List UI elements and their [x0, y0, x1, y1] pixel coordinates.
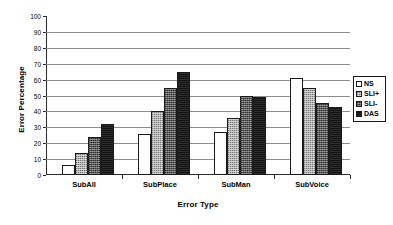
x-tick-label-subman: SubMan [221, 180, 250, 189]
y-tick-mark [43, 127, 46, 128]
legend-swatch-icon [356, 91, 362, 97]
y-tick-label: 80 [17, 44, 41, 51]
bar-suball-sliminus [88, 137, 101, 175]
legend-label: SLI+ [364, 90, 379, 98]
legend-item-das: DAS [356, 109, 383, 119]
y-tick-label: 90 [17, 28, 41, 35]
y-tick-mark [43, 159, 46, 160]
y-tick-label: 10 [17, 156, 41, 163]
bar-chart-figure: Error Percentage 0102030405060708090100 … [0, 0, 393, 225]
legend-label: NS [364, 80, 374, 88]
legend-item-ns: NS [356, 79, 383, 89]
bar-suball-das [101, 124, 114, 175]
bar-suball-ns [62, 165, 75, 175]
y-tick-mark [43, 16, 46, 17]
bar-subman-sliplus [227, 118, 240, 175]
bar-subvoice-sliplus [303, 88, 316, 175]
legend-label: SLI- [364, 100, 377, 108]
x-tick-label-subplace: SubPlace [143, 180, 177, 189]
y-tick-label: 100 [17, 13, 41, 20]
y-tick-mark [43, 111, 46, 112]
y-tick-label: 0 [17, 172, 41, 179]
y-tick-mark [43, 143, 46, 144]
x-tick-label-suball: SubAll [72, 180, 96, 189]
legend-label: DAS [364, 110, 379, 118]
bar-subvoice-sliminus [316, 103, 329, 175]
y-tick-label: 50 [17, 92, 41, 99]
x-tick-mark [198, 175, 199, 179]
y-tick-label: 40 [17, 108, 41, 115]
x-axis-title: Error Type [46, 200, 350, 209]
legend-swatch-icon [356, 111, 362, 117]
y-tick-mark [43, 175, 46, 176]
y-tick-mark [43, 64, 46, 65]
legend-swatch-icon [356, 101, 362, 107]
bar-suball-sliplus [75, 153, 88, 175]
y-tick-mark [43, 32, 46, 33]
bar-subplace-das [177, 72, 190, 175]
bar-subplace-sliplus [151, 111, 164, 175]
bar-subvoice-das [329, 107, 342, 175]
bar-subplace-sliminus [164, 88, 177, 175]
y-tick-label: 60 [17, 76, 41, 83]
bar-subman-ns [214, 132, 227, 175]
legend-item-sliminus: SLI- [356, 99, 383, 109]
legend-item-sliplus: SLI+ [356, 89, 383, 99]
y-tick-label: 70 [17, 60, 41, 67]
plot-area: 0102030405060708090100 [46, 16, 350, 175]
legend-swatch-icon [356, 81, 362, 87]
x-tick-label-subvoice: SubVoice [295, 180, 329, 189]
gridline [46, 32, 350, 33]
bar-subman-das [253, 97, 266, 175]
x-tick-mark [350, 175, 351, 179]
y-tick-mark [43, 80, 46, 81]
y-tick-mark [43, 48, 46, 49]
x-tick-mark [274, 175, 275, 179]
gridline [46, 48, 350, 49]
gridline [46, 80, 350, 81]
x-tick-mark [122, 175, 123, 179]
bar-subvoice-ns [290, 78, 303, 175]
y-tick-label: 20 [17, 140, 41, 147]
y-tick-mark [43, 96, 46, 97]
y-tick-label: 30 [17, 124, 41, 131]
gridline [46, 64, 350, 65]
bar-subplace-ns [138, 134, 151, 175]
chart-legend: NSSLI+SLI-DAS [353, 76, 386, 122]
bar-subman-sliminus [240, 96, 253, 175]
